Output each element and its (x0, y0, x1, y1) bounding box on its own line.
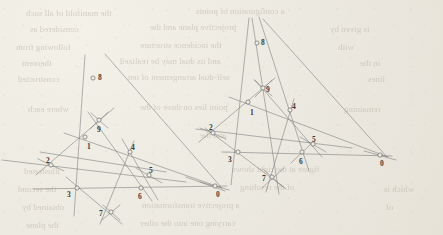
line-3-0-horizontal (222, 152, 392, 156)
left-configuration-points (49, 76, 217, 214)
right-configuration-lines (186, 17, 396, 194)
point-marker-9 (261, 86, 265, 90)
scanned-page: the manifold of all sucha configuration … (0, 0, 443, 235)
point-marker-5 (311, 142, 315, 146)
point-marker-4 (288, 108, 292, 112)
point-marker-6 (139, 186, 143, 190)
point-marker-3 (236, 150, 240, 154)
point-marker-4 (128, 150, 132, 154)
point-marker-0 (378, 153, 382, 157)
line-1-4-0 (64, 133, 222, 188)
figure-canvas (0, 0, 443, 235)
line-stub-lower-left (186, 177, 225, 191)
line-8-6-extended (259, 17, 309, 171)
line-3-7 (66, 177, 122, 224)
point-marker-7 (270, 175, 274, 179)
point-marker-1 (83, 135, 87, 139)
point-marker-9 (97, 118, 101, 122)
point-marker-2 (211, 131, 215, 135)
line-2-1-9-upper (36, 108, 114, 175)
line-1-4-0 (229, 97, 388, 157)
point-marker-6 (300, 150, 304, 154)
point-marker-7 (109, 210, 113, 214)
point-marker-1 (246, 100, 250, 104)
line-8-0 (263, 19, 387, 157)
left-configuration-lines (2, 54, 229, 224)
point-marker-0 (213, 184, 217, 188)
line-8-0 (105, 54, 221, 187)
point-marker-5 (147, 173, 151, 177)
line-3-0-horizontal (33, 186, 227, 189)
point-marker-2 (49, 163, 53, 167)
line-4-5-crossing (122, 139, 158, 200)
point-marker-8 (255, 41, 259, 45)
point-marker-3 (75, 186, 79, 190)
point-marker-8 (91, 76, 95, 80)
